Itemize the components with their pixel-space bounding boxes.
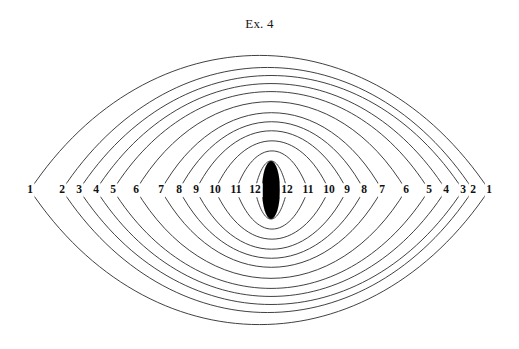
nested-lens-diagram	[0, 0, 519, 349]
axis-label-right-2-10: 2	[469, 183, 478, 197]
axis-label-right-12-0: 12	[280, 183, 295, 197]
axis-label-right-3-9: 3	[459, 183, 468, 197]
axis-label-left-12-11: 12	[248, 183, 263, 197]
axis-label-left-3-2: 3	[75, 183, 84, 197]
innermost-oval	[262, 161, 280, 219]
axis-label-right-11-1: 11	[301, 183, 315, 197]
axis-label-right-7-5: 7	[378, 183, 387, 197]
axis-label-right-1-11: 1	[485, 183, 494, 197]
figure-root: Ex. 4 123456789101112 121110987654321	[0, 0, 519, 349]
axis-label-left-5-4: 5	[109, 183, 118, 197]
axis-label-left-8-7: 8	[175, 183, 184, 197]
axis-label-left-2-1: 2	[58, 183, 67, 197]
axis-label-right-9-3: 9	[343, 183, 352, 197]
axis-label-right-6-6: 6	[402, 183, 411, 197]
axis-label-right-8-4: 8	[360, 183, 369, 197]
axis-label-left-4-3: 4	[92, 183, 101, 197]
axis-label-left-6-5: 6	[132, 183, 141, 197]
axis-label-right-10-2: 10	[322, 183, 337, 197]
axis-label-right-4-8: 4	[442, 183, 451, 197]
axis-label-left-11-10: 11	[229, 183, 243, 197]
axis-label-left-1-0: 1	[26, 183, 35, 197]
axis-label-right-5-7: 5	[425, 183, 434, 197]
axis-label-left-7-6: 7	[157, 183, 166, 197]
axis-label-left-9-8: 9	[192, 183, 201, 197]
axis-label-left-10-9: 10	[208, 183, 223, 197]
